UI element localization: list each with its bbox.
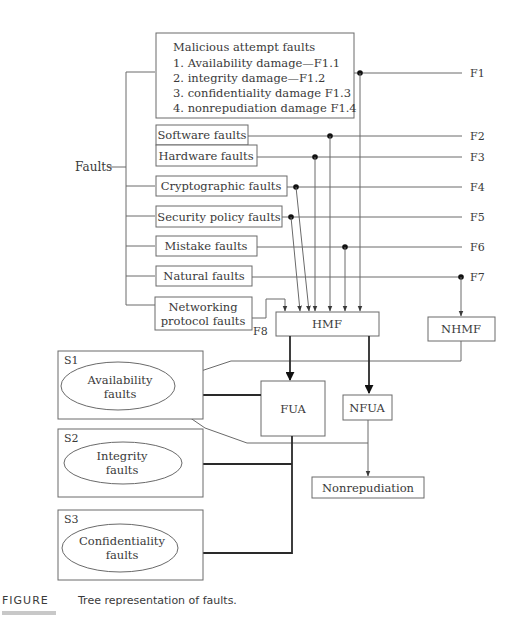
networking-protocol-faults-box: Networking protocol faults [155, 297, 252, 330]
nonrepudiation-label: Nonrepudiation [322, 481, 415, 495]
natural-faults-box: Natural faults [156, 266, 252, 286]
mistake-faults-label: Mistake faults [165, 239, 248, 253]
group-s1: S1 Availability faults [58, 351, 203, 419]
code-f6: F6 [470, 241, 485, 254]
hmf-label: HMF [312, 317, 342, 331]
fault-tree-diagram: Faults Malicious attempt faults 1. Avail… [0, 0, 521, 622]
availability-line2: faults [104, 387, 137, 401]
malicious-title: Malicious attempt faults [173, 40, 315, 54]
availability-line1: Availability [87, 373, 153, 387]
nfua-node: NFUA [343, 395, 392, 420]
nhmf-node: NHMF [428, 317, 495, 341]
code-f4: F4 [470, 181, 485, 194]
fua-node: FUA [261, 381, 325, 436]
nfua-label: NFUA [349, 401, 385, 415]
malicious-item-1: 1. Availability damage—F1.1 [173, 56, 340, 70]
malicious-item-2: 2. integrity damage—F1.2 [173, 71, 325, 85]
integrity-line1: Integrity [96, 449, 148, 463]
cryptographic-faults-label: Cryptographic faults [161, 179, 282, 193]
malicious-item-3: 3. confidentiality damage F1.3 [173, 86, 351, 100]
security-policy-faults-box: Security policy faults [156, 206, 282, 227]
security-policy-faults-label: Security policy faults [157, 210, 281, 224]
nhmf-label: NHMF [441, 322, 481, 336]
code-f1: F1 [470, 67, 485, 80]
nonrepudiation-node: Nonrepudiation [312, 477, 424, 498]
hardware-faults-box: Hardware faults [156, 145, 257, 166]
group-s3: S3 Confidentiality faults [58, 510, 203, 580]
integrity-line2: faults [106, 463, 139, 477]
malicious-attempt-faults-box: Malicious attempt faults 1. Availability… [156, 33, 357, 118]
code-f3: F3 [470, 151, 485, 164]
confidentiality-line1: Confidentiality [79, 534, 166, 548]
software-faults-label: Software faults [157, 128, 246, 142]
group-s2-id: S2 [64, 432, 79, 445]
code-f5: F5 [470, 211, 485, 224]
cryptographic-faults-box: Cryptographic faults [156, 176, 287, 196]
software-faults-box: Software faults [156, 125, 248, 145]
group-s1-id: S1 [64, 354, 79, 367]
natural-faults-label: Natural faults [163, 269, 244, 283]
code-f8: F8 [253, 325, 268, 338]
hardware-faults-label: Hardware faults [158, 149, 253, 163]
hmf-node: HMF [276, 312, 379, 336]
networking-label-line1: Networking [168, 300, 238, 314]
networking-label-line2: protocol faults [161, 314, 246, 328]
figure-label: FIGURE [2, 594, 49, 607]
figure-caption: Tree representation of faults. [78, 594, 237, 607]
malicious-item-4: 4. nonrepudiation damage F1.4 [173, 101, 357, 115]
code-f2: F2 [470, 130, 485, 143]
confidentiality-line2: faults [106, 548, 139, 562]
fua-label: FUA [280, 402, 306, 416]
root-label: Faults [75, 160, 112, 174]
figure-number-bar [2, 611, 56, 615]
mistake-faults-box: Mistake faults [156, 236, 257, 256]
code-f7: F7 [470, 271, 485, 284]
group-s3-id: S3 [64, 513, 79, 526]
group-s2: S2 Integrity faults [58, 429, 203, 497]
